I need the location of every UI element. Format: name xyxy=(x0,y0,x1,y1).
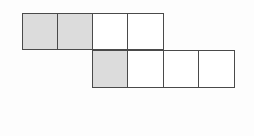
square-bottom-5[interactable] xyxy=(198,50,235,88)
square-top-1[interactable] xyxy=(57,13,93,50)
square-top-3[interactable] xyxy=(127,13,164,50)
square-top-2[interactable] xyxy=(92,13,128,50)
square-bottom-4[interactable] xyxy=(163,50,199,88)
square-top-0[interactable] xyxy=(22,13,58,50)
polyomino-grid xyxy=(22,13,238,88)
square-bottom-2[interactable] xyxy=(92,50,128,88)
square-bottom-3[interactable] xyxy=(127,50,164,88)
polyomino-figure xyxy=(0,0,254,136)
